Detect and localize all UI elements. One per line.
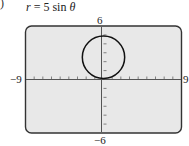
x-min-label: −9 <box>10 74 22 85</box>
graph-screen <box>0 0 189 146</box>
x-max-label: 9 <box>183 74 189 85</box>
y-max-label: 6 <box>97 15 103 26</box>
y-min-label: −6 <box>94 135 106 146</box>
